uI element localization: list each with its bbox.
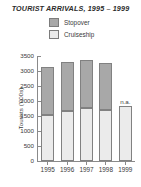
bar-group-1998[interactable]: [99, 56, 112, 161]
y-tick-label: 0: [31, 157, 34, 165]
y-tick-label: 3500: [20, 52, 34, 60]
x-tick-mark: [47, 162, 48, 165]
plot-area: Tourists ('000s) 05001000150020002500300…: [37, 56, 135, 162]
legend-label-cruiseship: Cruiseship: [64, 31, 94, 38]
bar-segment-stopover-1997[interactable]: [80, 60, 93, 108]
y-tick-label: 1500: [20, 112, 34, 120]
y-tick-label: 3000: [20, 67, 34, 75]
x-tick-mark: [105, 162, 106, 165]
legend-swatch-stopover: [49, 18, 59, 27]
x-tick-mark: [125, 162, 126, 165]
bar-segment-stopover-1998[interactable]: [99, 63, 112, 110]
legend-swatch-cruiseship: [49, 30, 59, 39]
bars-layer: n.a.: [38, 56, 135, 161]
x-axis-label-1999: 1999: [116, 166, 135, 173]
x-axis-label-1995: 1995: [38, 166, 57, 173]
bar-group-1996[interactable]: [61, 56, 74, 161]
x-axis-label-1997: 1997: [77, 166, 96, 173]
bar-group-1997[interactable]: [80, 56, 93, 161]
y-tick-label: 2500: [20, 82, 34, 90]
bar-segment-cruiseship-1996[interactable]: [61, 111, 74, 161]
bar-group-1995[interactable]: [41, 56, 54, 161]
y-tick-label: 500: [24, 142, 34, 150]
legend-label-stopover: Stopover: [64, 19, 90, 26]
bar-group-1999[interactable]: n.a.: [119, 56, 132, 161]
bar-segment-cruiseship-1995[interactable]: [41, 115, 54, 161]
bar-segment-cruiseship-1998[interactable]: [99, 110, 112, 161]
bar-segment-stopover-1996[interactable]: [61, 62, 74, 111]
legend-item-cruiseship: Cruiseship: [49, 29, 119, 40]
chart-title: TOURIST ARRIVALS, 1995 – 1999: [0, 4, 141, 13]
bar-segment-stopover-1995[interactable]: [41, 67, 54, 116]
legend-item-stopover: Stopover: [49, 17, 119, 28]
bar-annotation-1999: n.a.: [120, 98, 130, 105]
y-tick-label: 2000: [20, 97, 34, 105]
x-axis-label-1996: 1996: [57, 166, 76, 173]
x-axis-label-1998: 1998: [96, 166, 115, 173]
bar-segment-cruiseship-1999[interactable]: [119, 106, 132, 161]
tourist-arrivals-chart: TOURIST ARRIVALS, 1995 – 1999 Stopover C…: [0, 0, 141, 187]
y-tick-label: 1000: [20, 127, 34, 135]
chart-legend: Stopover Cruiseship: [49, 17, 119, 41]
bar-segment-cruiseship-1997[interactable]: [80, 108, 93, 161]
x-tick-mark: [67, 162, 68, 165]
x-tick-mark: [86, 162, 87, 165]
